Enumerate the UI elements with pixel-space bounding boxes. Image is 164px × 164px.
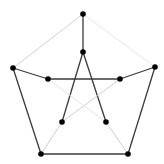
node-inner-left <box>45 76 51 82</box>
node-outer-top <box>80 11 86 17</box>
petersen-graph-diagram <box>0 0 164 164</box>
node-inner-right <box>117 76 123 82</box>
node-outer-bottom-right <box>125 151 131 157</box>
node-outer-left <box>10 65 16 71</box>
canvas-background <box>0 0 164 164</box>
node-inner-bottom-right <box>103 119 109 125</box>
node-outer-right <box>152 64 158 70</box>
node-inner-top <box>80 49 86 55</box>
node-outer-bottom-left <box>38 151 44 157</box>
node-inner-bottom-left <box>59 119 65 125</box>
